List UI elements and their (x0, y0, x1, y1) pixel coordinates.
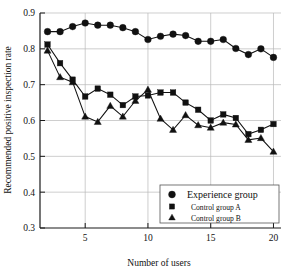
data-point (82, 20, 89, 27)
data-point (145, 36, 152, 43)
data-point (107, 22, 114, 29)
legend-label: Control group B (191, 214, 241, 223)
legend-label: Control group A (191, 203, 241, 212)
data-point (258, 46, 265, 53)
data-point (271, 121, 277, 127)
data-point (157, 33, 164, 40)
data-point (120, 102, 126, 108)
data-point (233, 115, 239, 121)
y-tick-label: 0.5 (23, 152, 35, 162)
data-point (258, 127, 264, 133)
data-point (57, 28, 64, 35)
x-tick-label: 5 (83, 233, 88, 243)
data-point (108, 92, 114, 98)
line-chart: 0.30.40.50.60.70.80.95101520 Experience … (0, 0, 290, 272)
data-point (94, 22, 101, 29)
y-tick-label: 0.9 (23, 8, 35, 18)
y-axis-label: Recommended positive inspection rate (3, 46, 13, 193)
data-point (69, 23, 76, 30)
legend-marker-circle (169, 191, 176, 198)
y-tick-label: 0.3 (23, 223, 35, 233)
chart-legend[interactable]: Experience groupControl group AControl g… (160, 185, 279, 223)
y-tick-label: 0.8 (23, 44, 35, 54)
y-tick-label: 0.4 (23, 188, 35, 198)
data-point (207, 38, 214, 45)
data-point (45, 42, 51, 48)
data-point (208, 118, 214, 124)
x-tick-label: 10 (143, 233, 153, 243)
data-point (120, 24, 127, 31)
data-point (245, 51, 252, 58)
data-point (170, 31, 177, 38)
data-point (232, 45, 239, 52)
data-point (195, 38, 202, 45)
legend-label: Experience group (187, 189, 258, 200)
data-point (132, 28, 139, 35)
data-point (182, 32, 189, 39)
x-axis-label: Number of users (127, 258, 191, 268)
data-point (57, 60, 63, 66)
data-point (221, 112, 227, 118)
data-point (95, 86, 101, 92)
y-tick-label: 0.6 (23, 116, 35, 126)
data-point (195, 107, 201, 113)
data-point (170, 90, 176, 96)
legend-marker-square (169, 204, 174, 209)
data-point (270, 54, 277, 61)
data-point (82, 94, 88, 100)
x-tick-label: 20 (269, 233, 279, 243)
data-point (183, 100, 189, 106)
chart-figure: 0.30.40.50.60.70.80.95101520 Experience … (0, 0, 290, 272)
y-tick-label: 0.7 (23, 80, 35, 90)
data-point (220, 36, 227, 43)
data-point (158, 90, 164, 96)
x-tick-label: 15 (206, 233, 216, 243)
data-point (44, 28, 51, 35)
